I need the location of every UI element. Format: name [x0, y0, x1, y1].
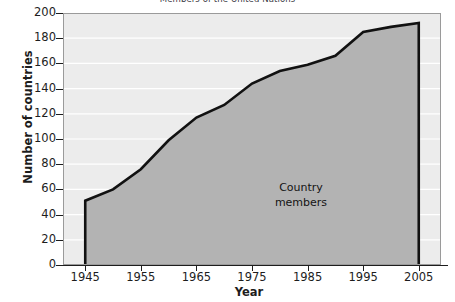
y-tick-label: 200 — [10, 7, 56, 19]
y-tick-label: 40 — [10, 209, 56, 221]
x-tick-label: 1985 — [278, 270, 338, 284]
x-tick-mark — [141, 265, 142, 271]
y-tick-label: 60 — [10, 184, 56, 196]
x-tick-label: 1995 — [333, 270, 393, 284]
y-tick-label: 120 — [10, 108, 56, 120]
x-tick-mark — [196, 265, 197, 271]
y-tick-mark — [56, 189, 63, 190]
y-tick-label: 20 — [10, 234, 56, 246]
x-tick-mark — [363, 265, 364, 271]
x-tick-mark — [308, 265, 309, 271]
x-tick-label: 1945 — [55, 270, 115, 284]
country-members-label: Country members — [249, 181, 353, 211]
y-tick-mark — [56, 13, 63, 14]
x-tick-label: 1965 — [166, 270, 226, 284]
x-tick-label: 1975 — [222, 270, 282, 284]
x-axis-label: Year — [77, 285, 421, 299]
chart-title: Members of the United Nations — [0, 0, 455, 3]
y-tick-label: 0 — [10, 259, 56, 271]
chart-figure: Members of the United Nations Number of … — [0, 0, 455, 302]
y-tick-mark — [56, 139, 63, 140]
country-members-area — [85, 23, 419, 265]
annotation-line-1: Country — [249, 181, 353, 196]
y-tick-label: 80 — [10, 158, 56, 170]
y-tick-mark — [56, 240, 63, 241]
x-tick-mark — [85, 265, 86, 271]
y-tick-mark — [56, 114, 63, 115]
plot-area: Country members — [63, 13, 441, 265]
y-tick-label: 140 — [10, 83, 56, 95]
annotation-line-2: members — [249, 196, 353, 211]
y-tick-mark — [56, 215, 63, 216]
y-tick-label: 180 — [10, 32, 56, 44]
y-tick-mark — [56, 89, 63, 90]
y-tick-label: 160 — [10, 58, 56, 70]
x-tick-label: 1955 — [111, 270, 171, 284]
y-tick-mark — [56, 164, 63, 165]
y-tick-mark — [56, 265, 63, 266]
x-tick-mark — [419, 265, 420, 271]
y-tick-mark — [56, 63, 63, 64]
y-tick-label: 100 — [10, 133, 56, 145]
y-tick-mark — [56, 38, 63, 39]
area-chart-svg — [63, 13, 441, 265]
x-tick-label: 2005 — [389, 270, 449, 284]
x-tick-mark — [252, 265, 253, 271]
